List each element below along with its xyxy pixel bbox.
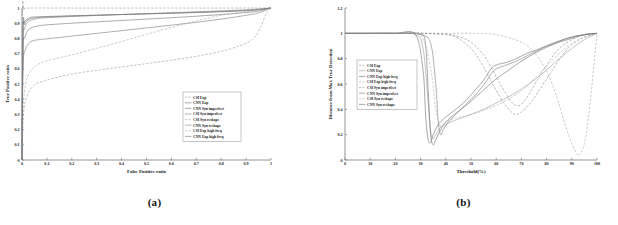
x-tick-label: 0.2 xyxy=(69,161,74,166)
y-tick-label: 0.1 xyxy=(14,142,19,147)
legend-label: CSI Syn imperfect xyxy=(367,86,397,90)
legend-label: CNN Syn imperfect xyxy=(367,92,399,96)
legend-label: CSI Syn reshape xyxy=(367,97,394,101)
y-tick-label: 1.2 xyxy=(337,6,342,11)
y-tick-label: 0.8 xyxy=(337,56,342,61)
y-tick-label: 0.2 xyxy=(14,127,19,132)
x-axis-title: Threshold(%) xyxy=(457,169,486,174)
x-tick-label: 10 xyxy=(368,161,372,166)
legend-label: CSI Exp high freq xyxy=(193,129,223,133)
y-tick-label: 0 xyxy=(340,158,342,163)
y-axis-title: Distance from Max True Detection xyxy=(328,48,333,119)
legend-label: CNN Syn imperfect xyxy=(193,107,225,111)
x-tick-label: 30 xyxy=(419,161,423,166)
legend-label: CNN Syn reshape xyxy=(193,124,221,128)
y-tick-label: 0.5 xyxy=(14,82,19,87)
x-tick-label: 0 xyxy=(21,161,23,166)
y-tick-label: 0.7 xyxy=(14,51,19,56)
y-tick-label: 0 xyxy=(17,158,19,163)
threshold-plot-svg: 010203040506070809010000.20.40.60.811.2T… xyxy=(309,0,618,190)
x-tick-label: 0.9 xyxy=(244,161,249,166)
legend-label: CSI Syn reshape xyxy=(193,118,220,122)
legend-label: CSI Exp high freq xyxy=(367,80,397,84)
y-tick-label: 0.9 xyxy=(14,21,19,26)
x-tick-label: 40 xyxy=(444,161,448,166)
y-tick-label: 0.8 xyxy=(14,36,19,41)
y-tick-label: 0.3 xyxy=(14,112,19,117)
figure-container: 00.10.20.30.40.50.60.70.80.9100.10.20.30… xyxy=(0,0,618,225)
legend-label: CNN Exp high freq xyxy=(367,75,399,79)
legend-label: CNN Exp xyxy=(367,69,382,73)
y-tick-label: 1 xyxy=(17,6,19,11)
x-tick-label: 0 xyxy=(344,161,346,166)
x-tick-label: 50 xyxy=(469,161,473,166)
x-tick-label: 0.8 xyxy=(219,161,224,166)
x-axis-title: False Positive ratio xyxy=(127,169,166,174)
legend-label: CNN Exp xyxy=(193,101,208,105)
x-tick-label: 60 xyxy=(494,161,498,166)
subfigure-b-caption: (b) xyxy=(309,196,618,208)
y-tick-label: 0.4 xyxy=(14,97,19,102)
legend-label: CSI Exp xyxy=(193,96,206,100)
legend-label: CSI Syn imperfect xyxy=(193,112,223,116)
y-tick-label: 1 xyxy=(340,31,342,36)
legend-label: CNN Exp high freq xyxy=(193,135,225,139)
x-tick-label: 0.7 xyxy=(194,161,199,166)
x-tick-label: 0.6 xyxy=(169,161,174,166)
x-tick-label: 90 xyxy=(570,161,574,166)
x-tick-label: 100 xyxy=(594,161,600,166)
y-axis-title: True Positive ratio xyxy=(5,64,10,103)
subfigure-a: 00.10.20.30.40.50.60.70.80.9100.10.20.30… xyxy=(0,0,309,225)
y-tick-label: 0.6 xyxy=(337,82,342,87)
x-tick-label: 70 xyxy=(519,161,523,166)
legend-label: CNN Syn reshape xyxy=(367,103,395,107)
x-tick-label: 20 xyxy=(393,161,397,166)
plot-a: 00.10.20.30.40.50.60.70.80.9100.10.20.30… xyxy=(0,0,309,190)
x-tick-label: 0.1 xyxy=(44,161,49,166)
x-tick-label: 1 xyxy=(270,161,272,166)
roc-plot-svg: 00.10.20.30.40.50.60.70.80.9100.10.20.30… xyxy=(0,0,309,190)
subfigure-b: 010203040506070809010000.20.40.60.811.2T… xyxy=(309,0,618,225)
x-tick-label: 80 xyxy=(545,161,549,166)
y-tick-label: 0.4 xyxy=(337,107,342,112)
plot-b: 010203040506070809010000.20.40.60.811.2T… xyxy=(309,0,618,190)
x-tick-label: 0.5 xyxy=(144,161,149,166)
x-tick-label: 0.3 xyxy=(94,161,99,166)
legend-label: CSI Exp xyxy=(367,64,380,68)
subfigure-a-caption: (a) xyxy=(0,196,309,208)
y-tick-label: 0.6 xyxy=(14,66,19,71)
y-tick-label: 0.2 xyxy=(337,132,342,137)
x-tick-label: 0.4 xyxy=(119,161,124,166)
